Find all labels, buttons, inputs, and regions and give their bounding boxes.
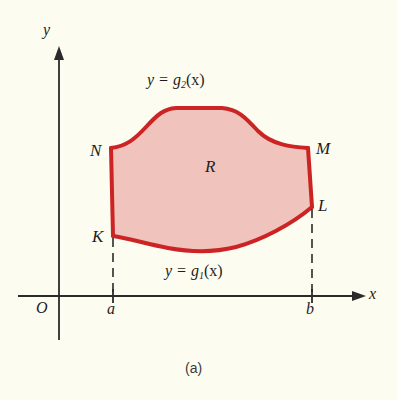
point-label-N: N <box>90 142 101 159</box>
curve-label-g1-tail: (x) <box>204 262 223 279</box>
region-label-R: R <box>205 158 215 175</box>
curve-label-g2: y = g2(x) <box>147 72 205 90</box>
segment-NK-left-edge <box>111 148 113 236</box>
curve-label-g2-main: y = g <box>147 71 181 88</box>
curve-label-g1-main: y = g <box>165 262 199 279</box>
x-tick-label-a: a <box>107 301 115 317</box>
curve-label-g2-tail: (x) <box>186 71 205 88</box>
y-axis-arrowhead <box>54 46 64 60</box>
origin-label: O <box>36 300 48 316</box>
point-label-K: K <box>92 228 103 245</box>
point-label-M: M <box>316 140 330 157</box>
x-axis-label: x <box>369 286 376 302</box>
y-axis-label: y <box>43 22 50 38</box>
figure-caption: (a) <box>185 360 202 376</box>
x-tick-label-b: b <box>306 301 314 317</box>
curve-label-g1: y = g1(x) <box>165 263 223 281</box>
point-label-L: L <box>318 197 327 214</box>
x-axis-arrowhead <box>352 291 366 301</box>
figure-container: y x O a b N K M L R y = g2(x) y = g1(x) … <box>0 0 397 400</box>
diagram-canvas <box>0 0 397 400</box>
